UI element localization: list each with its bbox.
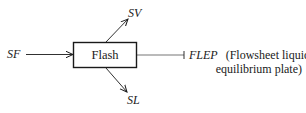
feed-stream-label: SF <box>7 47 21 61</box>
plate-label: FLEP <box>188 48 218 62</box>
plate-description-line1: (Flowsheet liquid <box>226 48 306 62</box>
plate-description-line2: equilibrium plate) <box>216 62 302 76</box>
liquid-arrow <box>106 68 127 92</box>
plate-label-line1: FLEP (Flowsheet liquid <box>188 45 306 62</box>
flash-unit-label: Flash <box>91 48 119 62</box>
liquid-stream-label: SL <box>127 93 140 107</box>
vapor-stream-label: SV <box>128 6 143 20</box>
vapor-arrow <box>106 19 128 42</box>
flash-diagram: SF Flash SV SL FLEP (Flowsheet liquid eq… <box>0 0 306 113</box>
